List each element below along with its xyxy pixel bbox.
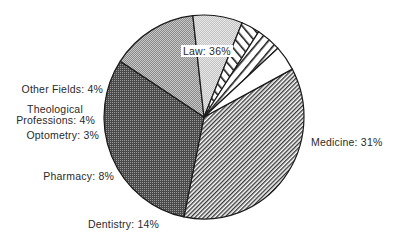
label-medicine: Medicine: 31% <box>311 136 382 148</box>
label-other-fields: Other Fields: 4% <box>22 83 103 95</box>
label-law: Law: 36% <box>181 45 233 57</box>
label-theological-line2: Professions: 4% <box>16 114 95 126</box>
label-optometry: Optometry: 3% <box>26 129 99 141</box>
label-dentistry: Dentistry: 14% <box>88 218 159 230</box>
label-pharmacy: Pharmacy: 8% <box>43 170 114 182</box>
label-law-text: Law: 36% <box>181 45 233 57</box>
